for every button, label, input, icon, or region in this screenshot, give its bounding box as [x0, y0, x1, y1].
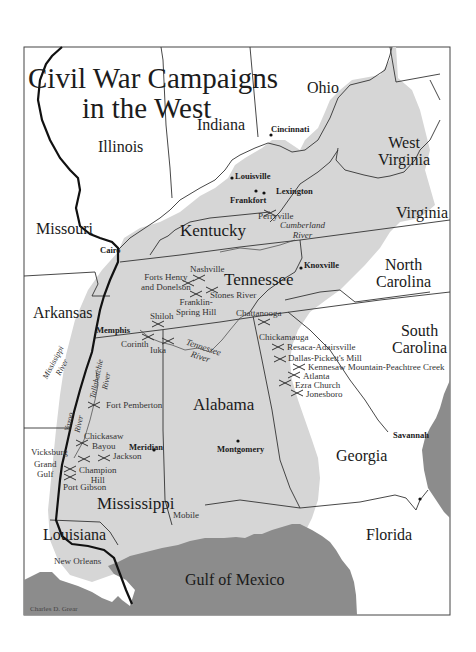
state-label-alabama: Alabama — [193, 396, 254, 413]
battle-label-chickamauga: Chickamauga — [259, 333, 308, 342]
battle-label-grand-gulf: Grand Gulf — [34, 459, 57, 479]
city-label-cincinnati: Cincinnati — [271, 125, 309, 134]
state-label-louisiana: Louisiana — [43, 527, 106, 543]
state-label-illinois: Illinois — [98, 139, 143, 155]
river-label-yazoo: Yazoo River — [63, 412, 86, 435]
battle-label-stones-river: Stones River — [210, 291, 256, 300]
battle-label-franklin-line1: Franklin- — [176, 297, 216, 307]
city-label-montgomery: Montgomery — [217, 445, 264, 454]
water-label-gulf-of-mexico: Gulf of Mexico — [185, 572, 285, 588]
state-label-virginia: Virginia — [396, 205, 448, 221]
map-title-line2: in the West — [82, 94, 211, 123]
state-label-mississippi: Mississippi — [97, 495, 174, 512]
battle-label-shiloh: Shiloh — [150, 312, 174, 321]
city-label-vicksburg: Vicksburg — [31, 448, 68, 457]
state-label-georgia: Georgia — [336, 448, 387, 464]
city-label-frankfort: Frankfort — [230, 196, 266, 205]
battle-label-port-gibson: Port Gibson — [63, 483, 106, 492]
state-label-north-carolina: North Carolina — [376, 256, 431, 290]
battle-label-jackson: Jackson — [113, 452, 142, 461]
state-label-west-virginia-line1: West — [378, 134, 430, 151]
state-label-west-virginia-line2: Virginia — [378, 151, 430, 168]
battle-label-grand-gulf-line2: Gulf — [34, 469, 57, 479]
state-label-florida: Florida — [366, 527, 412, 543]
city-label-memphis: Memphis — [96, 326, 130, 335]
battle-label-franklin: Franklin- Spring Hill — [176, 297, 216, 317]
map-title-line1: Civil War Campaigns — [28, 64, 278, 93]
city-label-knoxville: Knoxville — [304, 261, 339, 270]
city-label-lexington: Lexington — [276, 187, 313, 196]
city-label-new-orleans: New Orleans — [54, 557, 101, 566]
state-label-south-carolina-line2: Carolina — [392, 339, 447, 356]
state-label-kentucky: Kentucky — [180, 222, 246, 239]
battle-label-grand-gulf-line1: Grand — [34, 459, 57, 469]
state-label-arkansas: Arkansas — [33, 305, 93, 321]
state-label-indiana: Indiana — [197, 117, 245, 133]
battle-label-forts-henry: Forts Henry and Donelson — [141, 272, 191, 292]
river-label-cumberland-line1: Cumberland — [280, 220, 325, 230]
map-credit: Charles D. Grear — [30, 606, 78, 613]
battle-label-resaca: Resaca-Adairsville — [287, 343, 355, 352]
battle-label-franklin-line2: Spring Hill — [176, 307, 216, 317]
battle-label-chickasaw-line1: Chickasaw — [84, 431, 124, 441]
city-label-chattanooga: Chattanooga — [236, 309, 282, 318]
battle-label-chickasaw-line2: Bayou — [84, 441, 124, 451]
battle-label-forts-henry-line2: and Donelson — [141, 282, 191, 292]
battle-label-fort-pemberton: Fort Pemberton — [106, 401, 162, 410]
battle-label-forts-henry-line1: Forts Henry — [141, 272, 191, 282]
state-label-south-carolina: South Carolina — [392, 322, 447, 356]
state-label-south-carolina-line1: South — [392, 322, 447, 339]
state-label-missouri: Missouri — [36, 221, 93, 237]
battle-label-iuka: Iuka — [150, 346, 166, 355]
city-label-mobile: Mobile — [173, 511, 199, 520]
battle-label-chickasaw-bayou: Chickasaw Bayou — [84, 431, 124, 451]
battle-label-corinth: Corinth — [121, 340, 149, 349]
battle-label-champion-line1: Champion — [79, 465, 117, 475]
state-label-west-virginia: West Virginia — [378, 134, 430, 168]
city-label-cairo: Cairo — [100, 246, 121, 255]
state-label-ohio: Ohio — [307, 80, 339, 96]
battle-label-jonesboro: Jonesboro — [306, 390, 343, 399]
city-label-savannah: Savannah — [393, 431, 429, 440]
river-label-cumberland: Cumberland River — [280, 220, 325, 240]
state-label-north-carolina-line1: North — [376, 256, 431, 273]
state-label-north-carolina-line2: Carolina — [376, 273, 431, 290]
battle-label-nashville: Nashville — [190, 265, 225, 274]
state-label-tennessee: Tennessee — [224, 271, 294, 288]
river-label-cumberland-line2: River — [280, 230, 325, 240]
city-label-louisville: Louisville — [235, 172, 270, 181]
